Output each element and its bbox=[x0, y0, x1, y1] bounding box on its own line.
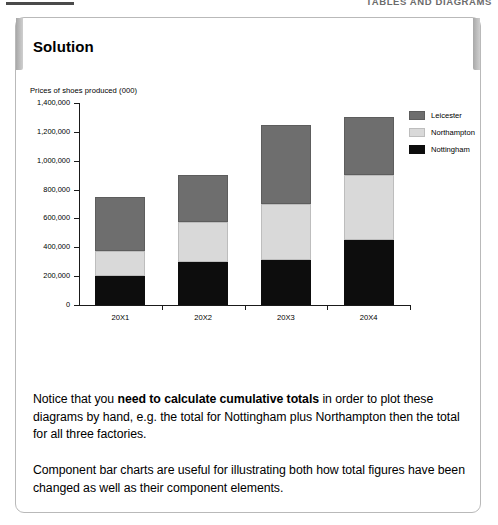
x-axis-tick bbox=[410, 305, 411, 310]
legend-item-leicester: Leicester bbox=[409, 108, 489, 122]
y-axis-tick-label-text: 600,000 bbox=[18, 213, 70, 222]
legend-item-nottingham: Nottingham bbox=[409, 142, 489, 156]
y-axis-tick-label: 0 bbox=[16, 300, 70, 310]
legend-label-northampton: Northampton bbox=[431, 128, 475, 137]
panel-accent-bar-left bbox=[16, 18, 23, 70]
x-axis-tick-label: 20X1 bbox=[90, 313, 150, 322]
y-axis-tick-label: 600,000 bbox=[16, 213, 70, 223]
panel-accent-bar-right bbox=[473, 18, 480, 70]
y-axis-tick-label: 200,000 bbox=[16, 271, 70, 281]
y-axis-tick bbox=[74, 276, 79, 277]
bar-segment-nottingham bbox=[95, 276, 145, 305]
chart-legend: LeicesterNorthamptonNottingham bbox=[409, 108, 489, 159]
bar-segment-northampton bbox=[95, 251, 145, 276]
y-axis-tick-label-text: 200,000 bbox=[18, 271, 70, 280]
y-axis-tick bbox=[74, 161, 79, 162]
bar-segment-leicester bbox=[261, 125, 311, 204]
bar-segment-leicester bbox=[95, 197, 145, 251]
paragraph-1-bold-phrase: need to calculate cumulative totals bbox=[117, 392, 319, 406]
bar-segment-northampton bbox=[261, 204, 311, 260]
y-axis-tick-label: 1,000,000 bbox=[16, 156, 70, 166]
bar-segment-northampton bbox=[178, 222, 228, 262]
y-axis-tick-label-text: 1,200,000 bbox=[18, 127, 70, 136]
chart-axis-label: Prices of shoes produced (000) bbox=[30, 86, 137, 95]
legend-swatch-nottingham bbox=[409, 145, 425, 154]
y-axis-tick-label: 400,000 bbox=[16, 242, 70, 252]
page-title: Solution bbox=[33, 38, 94, 55]
x-axis-tick-label: 20X4 bbox=[339, 313, 399, 322]
bar-stack-20x4 bbox=[344, 117, 394, 305]
legend-label-leicester: Leicester bbox=[431, 111, 462, 120]
legend-label-nottingham: Nottingham bbox=[431, 145, 470, 154]
paragraph-1-text-part-1: Notice that you bbox=[33, 392, 117, 406]
legend-swatch-leicester bbox=[409, 111, 425, 120]
bar-segment-northampton bbox=[344, 175, 394, 240]
y-axis-tick-label-text: 800,000 bbox=[18, 185, 70, 194]
x-axis-tick bbox=[162, 305, 163, 310]
y-axis-tick bbox=[74, 103, 79, 104]
y-axis-tick-label: 800,000 bbox=[16, 185, 70, 195]
x-axis-tick bbox=[327, 305, 328, 310]
body-paragraph-1: Notice that you need to calculate cumula… bbox=[33, 391, 465, 444]
bar-stack-20x3 bbox=[261, 125, 311, 305]
body-paragraph-2: Component bar charts are useful for illu… bbox=[33, 462, 465, 497]
bar-segment-nottingham bbox=[261, 260, 311, 305]
x-axis-tick-label: 20X3 bbox=[256, 313, 316, 322]
x-axis-tick bbox=[245, 305, 246, 310]
chart-plot-area: 1,400,0001,200,0001,000,000800,000600,00… bbox=[16, 103, 482, 348]
y-axis-tick bbox=[74, 247, 79, 248]
running-head-title: TABLES AND DIAGRAMS bbox=[366, 0, 492, 7]
bar-segment-leicester bbox=[178, 175, 228, 222]
legend-item-northampton: Northampton bbox=[409, 125, 489, 139]
y-axis-line bbox=[79, 103, 80, 305]
y-axis-tick-label: 1,400,000 bbox=[16, 98, 70, 108]
legend-swatch-northampton bbox=[409, 128, 425, 137]
y-axis-tick-label: 1,200,000 bbox=[16, 127, 70, 137]
bar-segment-nottingham bbox=[344, 240, 394, 305]
y-axis-tick-label-text: 1,400,000 bbox=[18, 98, 70, 107]
bar-segment-nottingham bbox=[178, 262, 228, 305]
y-axis-tick bbox=[74, 190, 79, 191]
y-axis-tick-label-text: 1,000,000 bbox=[18, 156, 70, 165]
y-axis-tick bbox=[74, 305, 79, 306]
y-axis-tick-label-text: 0 bbox=[18, 300, 70, 309]
bar-segment-leicester bbox=[344, 117, 394, 175]
bar-stack-20x1 bbox=[95, 197, 145, 305]
page-running-header: TABLES AND DIAGRAMS bbox=[0, 0, 498, 11]
x-axis-tick-label: 20X2 bbox=[173, 313, 233, 322]
y-axis-tick-label-text: 400,000 bbox=[18, 242, 70, 251]
bar-stack-20x2 bbox=[178, 175, 228, 305]
y-axis-tick bbox=[74, 218, 79, 219]
solution-panel: Solution Prices of shoes produced (000) … bbox=[15, 17, 481, 513]
y-axis-tick bbox=[74, 132, 79, 133]
stacked-bar-chart: Prices of shoes produced (000) 1,400,000… bbox=[16, 86, 482, 348]
header-rule bbox=[6, 2, 74, 5]
